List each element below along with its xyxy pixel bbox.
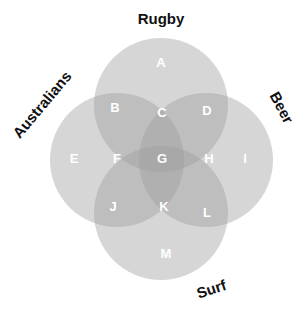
set-label-rugby: Rugby	[138, 10, 185, 27]
region-label-a: A	[156, 55, 166, 70]
region-label-l: L	[203, 205, 211, 220]
region-label-f: F	[113, 151, 121, 166]
set-label-surf: Surf	[194, 276, 229, 302]
region-label-k: K	[159, 199, 169, 214]
set-label-beer: Beer	[267, 89, 298, 127]
region-label-b: B	[110, 100, 119, 115]
region-label-i: I	[243, 151, 247, 166]
region-label-d: D	[202, 103, 211, 118]
venn-diagram: Rugby Australians Beer Surf A B C D E F …	[0, 0, 304, 311]
region-label-m: M	[161, 246, 172, 261]
region-label-e: E	[70, 151, 79, 166]
region-label-j: J	[109, 199, 116, 214]
region-label-h: H	[204, 151, 213, 166]
region-label-c: C	[157, 105, 167, 120]
region-label-g: G	[157, 151, 167, 166]
